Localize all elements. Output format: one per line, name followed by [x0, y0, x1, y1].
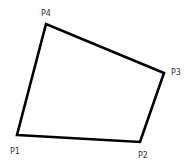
point-label-p1: P1 — [10, 147, 20, 156]
point-label-p3: P3 — [171, 68, 181, 77]
point-label-p2: P2 — [138, 151, 148, 160]
point-label-p4: P4 — [41, 9, 51, 18]
quadrilateral-shape — [17, 24, 164, 142]
quadrilateral-diagram: P1 P2 P3 P4 — [0, 0, 196, 164]
